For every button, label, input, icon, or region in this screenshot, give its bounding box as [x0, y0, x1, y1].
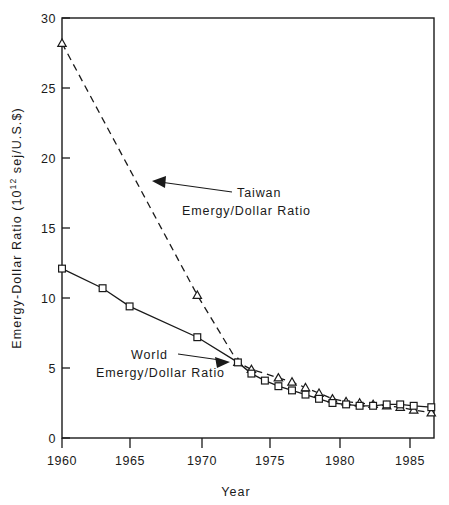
- data-point-square: [410, 402, 417, 409]
- data-point-square: [235, 359, 242, 366]
- data-point-square: [316, 395, 323, 402]
- y-tick-label-5: 5: [48, 362, 56, 376]
- data-point-square: [248, 370, 255, 377]
- x-tick-label-1980: 1980: [325, 454, 355, 468]
- data-point-triangle: [193, 291, 201, 298]
- y-axis-ticks: [62, 18, 70, 438]
- data-point-square: [194, 334, 201, 341]
- x-tick-label-1985: 1985: [395, 454, 425, 468]
- taiwan-annotation-line1: Taiwan: [237, 186, 281, 200]
- data-point-triangle: [58, 39, 66, 46]
- data-point-square: [343, 401, 350, 408]
- data-point-square: [275, 383, 282, 390]
- taiwan-annotation-arrowhead-icon: [152, 176, 166, 188]
- data-point-square: [383, 401, 390, 408]
- series-line: [62, 269, 431, 408]
- x-axis-ticks: [62, 438, 410, 448]
- y-tick-label-20: 20: [41, 152, 56, 166]
- data-point-square: [356, 402, 363, 409]
- data-point-square: [397, 401, 404, 408]
- series-world: [59, 265, 435, 410]
- taiwan-annotation-leader-line: [160, 182, 232, 192]
- y-tick-label-10: 10: [41, 292, 56, 306]
- x-tick-label-1970: 1970: [187, 454, 217, 468]
- data-point-square: [59, 265, 66, 272]
- y-axis-title-main: Emergy-Dollar Ratio (10: [10, 189, 24, 348]
- y-axis-title: Emergy-Dollar Ratio (1012 sej/U.S.$): [8, 107, 24, 348]
- y-axis-title-tail: sej/U.S.$): [10, 107, 24, 177]
- series-line: [62, 43, 431, 413]
- data-point-triangle: [301, 383, 309, 390]
- data-point-square: [289, 387, 296, 394]
- data-series-layer: [58, 39, 436, 416]
- y-tick-label-25: 25: [41, 82, 56, 96]
- data-point-square: [370, 402, 377, 409]
- x-axis-tick-labels: 1960 1965 1970 1975 1980 1985: [47, 454, 425, 468]
- world-annotation-leader-line: [178, 354, 220, 360]
- data-point-square: [329, 400, 336, 407]
- world-annotation: World Emergy/Dollar Ratio: [96, 348, 230, 380]
- taiwan-annotation: Taiwan Emergy/Dollar Ratio: [152, 176, 311, 218]
- x-tick-label-1975: 1975: [255, 454, 285, 468]
- x-tick-label-1960: 1960: [47, 454, 77, 468]
- emergy-dollar-ratio-line-chart: 30 25 20 15 10 5 0 1960 1965 1970 1975 1…: [0, 0, 449, 505]
- y-tick-label-0: 0: [48, 432, 56, 446]
- chart-figure: 30 25 20 15 10 5 0 1960 1965 1970 1975 1…: [0, 0, 449, 505]
- data-point-square: [262, 377, 269, 384]
- data-point-square: [99, 285, 106, 292]
- data-point-square: [428, 404, 435, 411]
- x-tick-label-1965: 1965: [115, 454, 145, 468]
- y-axis-tick-labels: 30 25 20 15 10 5 0: [41, 12, 56, 446]
- data-point-square: [302, 391, 309, 398]
- taiwan-annotation-line2: Emergy/Dollar Ratio: [182, 204, 311, 218]
- world-annotation-line1: World: [131, 348, 168, 362]
- data-point-square: [126, 303, 133, 310]
- y-tick-label-30: 30: [41, 12, 56, 26]
- data-point-triangle: [288, 378, 296, 385]
- data-point-triangle: [274, 374, 282, 381]
- series-taiwan: [58, 39, 436, 416]
- world-annotation-line2: Emergy/Dollar Ratio: [96, 366, 225, 380]
- y-tick-label-15: 15: [41, 222, 56, 236]
- y-axis-title-exponent: 12: [8, 178, 18, 190]
- x-axis-title: Year: [221, 485, 251, 499]
